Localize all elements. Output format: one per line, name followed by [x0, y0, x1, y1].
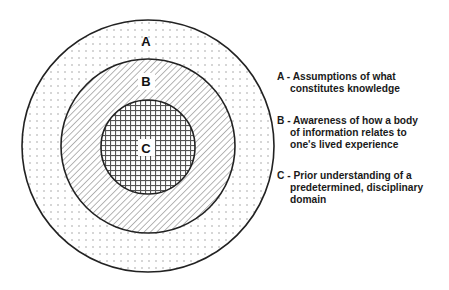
legend-a-first-line: A - Assumptions of what	[277, 71, 396, 83]
legend-b-key: B -	[277, 115, 293, 126]
legend-c-first-line: C - Prior understanding of a	[277, 170, 412, 182]
legend-item-c: C - Prior understanding of a predetermin…	[277, 170, 449, 206]
legend-b-first-line: B - Awareness of how a body	[277, 115, 418, 127]
legend-a-text-line1: Assumptions of what	[293, 71, 396, 82]
ring-b-label: B	[141, 74, 150, 89]
legend-c-key: C -	[277, 170, 293, 181]
ring-a-label: A	[141, 34, 151, 49]
legend-item-a: A - Assumptions of what constitutes know…	[277, 71, 449, 95]
ring-c-label: C	[141, 141, 151, 156]
legend-item-b: B - Awareness of how a body of informati…	[277, 115, 449, 151]
legend-c-text-line1: Prior understanding of a	[293, 170, 411, 181]
legend-a-key: A -	[277, 71, 293, 82]
legend-b-text-line1: Awareness of how a body	[293, 115, 418, 126]
